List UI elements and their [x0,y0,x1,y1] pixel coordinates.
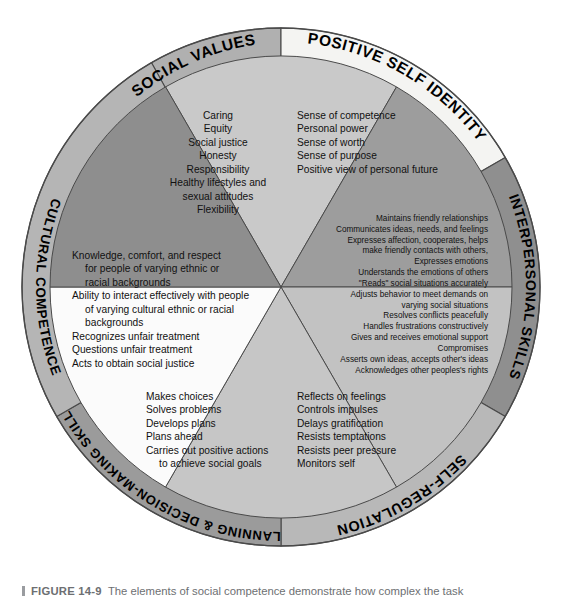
sector-line: Honesty [199,150,237,161]
sector-line: Resists peer pressure [297,445,396,456]
sector-line: Knowledge, comfort, and respect [72,250,221,261]
sector-line: Sense of purpose [297,150,377,161]
sector-line: Flexibility [197,204,240,215]
sector-line: sexual attitudes [183,191,254,202]
sector-line: Social justice [188,137,248,148]
caption-tick-marker [22,586,25,596]
sector-line: Monitors self [297,458,355,469]
sector-line: Ability to interact effectively with peo… [72,290,249,301]
sector-line: Gives and receives emotional support [351,333,489,342]
sector-line: Resists temptations [297,431,386,442]
sector-line: make friendly contacts with others, [362,246,488,255]
sector-line: Acknowledges other peoples's rights [355,366,488,375]
figure-caption: FIGURE 14-9 The elements of social compe… [22,585,542,598]
sector-line: Resolves conflicts peacefully [383,311,489,320]
sector-line: Sense of competence [297,110,396,121]
social-competence-wheel: SOCIAL VALUES POSITIVE SELF IDENTITY INT… [0,0,561,598]
sector-line: for people of varying ethnic or [85,263,220,274]
sector-line: of varying cultural ethnic or racial [85,304,234,315]
sector-line: Responsibility [187,164,251,175]
sector-line: Caring [203,110,233,121]
sector-line: Expresses affection, cooperates, helps [348,236,488,245]
sector-line: Plans ahead [146,431,203,442]
sector-line: Maintains friendly relationships [376,214,488,223]
sector-line: Equity [204,123,233,134]
figure-container: SOCIAL VALUES POSITIVE SELF IDENTITY INT… [0,0,561,598]
caption-figure-number: FIGURE 14-9 [31,585,102,597]
sector-line: Develops plans [146,418,216,429]
sector-line: Controls impulses [297,404,378,415]
sector-line: Compromises [437,344,488,353]
caption-sentence: The elements of social competence demons… [108,585,463,597]
sector-line: to achieve social goals [159,458,262,469]
sector-line: Positive view of personal future [297,164,438,175]
sector-line: Healthy lifestyles and [170,177,267,188]
sector-line: backgrounds [85,317,143,328]
sector-line: Handles frustrations constructively [363,322,489,331]
sector-line: Personal power [297,123,368,134]
sector-line: Carries out positive actions [146,445,268,456]
sector-line: Recognizes unfair treatment [72,331,200,342]
sector-line: Sense of worth [297,137,365,148]
sector-line: Solves problems [146,404,221,415]
sector-line: Communicates ideas, needs, and feelings [336,225,488,234]
sector-line: Expresses emotions [414,257,488,266]
sector-line: racial backgrounds [85,277,171,288]
sector-line: Asserts own ideas, accepts other's ideas [340,355,488,364]
sector-line: Delays gratification [297,418,383,429]
sector-line: Reflects on feelings [297,391,386,402]
sector-line: varying social situations [402,301,488,310]
sector-line: Understands the emotions of others [358,268,488,277]
sector-line: Acts to obtain social justice [72,358,195,369]
sector-line: Makes choices [146,391,213,402]
sector-line: Adjusts behavior to meet demands on [351,290,489,299]
sector-line: Questions unfair treatment [72,344,192,355]
sector-line: "Reads" social situations accurately [359,279,489,288]
